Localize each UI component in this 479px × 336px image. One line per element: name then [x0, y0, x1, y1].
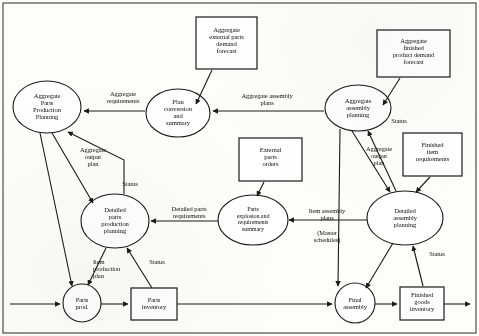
node-agg-parts-production-planning [13, 81, 81, 133]
edge-detailed-parts-to-parts-prod [88, 248, 106, 285]
node-finished-item-requirements [403, 133, 462, 176]
edge-finished-forecast-to-agg-assembly [383, 78, 400, 105]
edge-agg-assembly-to-final-assembly [338, 129, 340, 286]
node-agg-assembly-planning [325, 85, 391, 131]
edge-agg-parts-to-parts-prod [40, 133, 72, 286]
node-agg-external-parts-forecast [196, 17, 257, 69]
edge-detailed-parts-status-to-agg-parts [68, 132, 124, 194]
edge-detailed-assembly-status-to-agg-assembly [368, 131, 396, 191]
node-parts-prod [63, 284, 101, 322]
node-agg-finished-product-forecast [377, 30, 450, 77]
node-external-parts-orders [239, 138, 302, 181]
edge-finished-item-req-to-detailed-assembly [416, 177, 430, 192]
node-detailed-parts-production-planning [81, 194, 149, 248]
node-parts-inventory [131, 288, 177, 320]
edge-detailed-assembly-to-final-assembly [366, 243, 393, 288]
edge-agg-assembly-to-detailed-assembly [352, 131, 390, 192]
diagram-graphics [0, 0, 479, 336]
node-detailed-assembly-planning [367, 191, 443, 245]
node-final-assembly [335, 283, 375, 323]
node-finished-goods-inventory [400, 287, 444, 320]
node-parts-explosion-requirements-summary [218, 195, 288, 245]
edge-finished-goods-status-to-detailed-assembly [413, 246, 423, 286]
node-plan-conversion-and-summary [146, 89, 210, 137]
edge-external-orders-to-parts-explosion [257, 182, 264, 196]
diagram-canvas: Aggregate external parts demand forecast… [0, 0, 479, 336]
edge-parts-inventory-status-to-detailed-parts [127, 248, 152, 288]
edge-agg-parts-to-detailed-parts [52, 133, 93, 203]
